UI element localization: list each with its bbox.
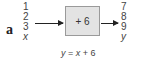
function-formula: y = x + 6 [61,48,96,58]
input-values: 1 2 3 x [23,2,29,42]
output-arrow-icon [101,23,118,24]
operation-label: + 6 [75,16,89,27]
output-variable: y [121,32,127,42]
input-variable: x [23,32,29,42]
diagram-label: a [6,22,13,38]
input-arrow-icon [35,23,63,24]
output-values: 7 8 9 y [121,2,127,42]
formula-rest: + 6 [80,48,95,58]
formula-equals: = [66,48,76,58]
function-machine-box: + 6 [65,6,100,36]
